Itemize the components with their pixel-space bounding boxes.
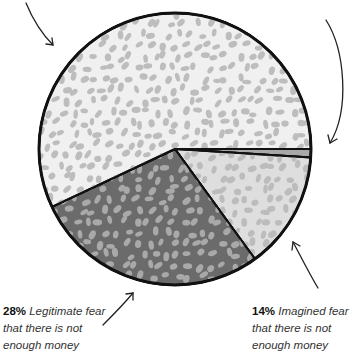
label-legitimate-fear-pct: 28% bbox=[3, 305, 26, 317]
label-imagined-fear-pct: 14% bbox=[252, 305, 275, 317]
arrow-top-left bbox=[26, 3, 53, 45]
label-imagined-fear: 14% Imagined fear that there is not enou… bbox=[252, 303, 353, 354]
arrow-top-right bbox=[326, 20, 343, 143]
label-legitimate-fear: 28% Legitimate fear that there is not en… bbox=[3, 303, 108, 354]
arrow-bottom-right bbox=[293, 242, 318, 288]
